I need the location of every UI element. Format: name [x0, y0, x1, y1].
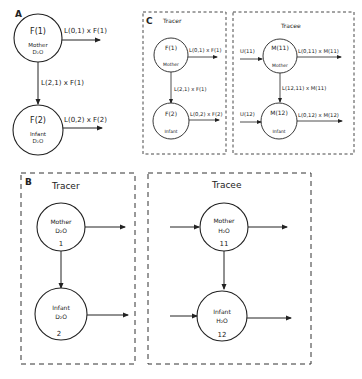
node-sub-label: Infant [30, 131, 47, 137]
panel-c-tracer-node-mother: F(1) Mother [154, 38, 188, 72]
compartment-circle [13, 105, 63, 155]
node-number: 11 [220, 240, 229, 248]
panel-c-tracer-title: Tracer [162, 17, 182, 24]
flow-label: L(0,2) x F(2) [64, 116, 107, 124]
compartment-model-diagram: A F(1) Mother D₂O L(0,1) x F(1) L(2,1) x… [0, 0, 362, 379]
panel-b: B Tracer Mother D₂O 1 Infant D₂O 2 Trace… [21, 173, 311, 364]
node-number: 12 [218, 331, 227, 339]
flow-label: L(12,11) x M(11) [282, 85, 326, 91]
flow-label: L(0,1) x F(1) [189, 47, 222, 53]
panel-b-tracee-node-mother: Mother H₂O 11 [200, 203, 248, 251]
flow-label: L(0,11) x M(11) [298, 48, 339, 54]
panel-c-tracee-node-mother: M(11) Mother [263, 39, 297, 73]
node-name: Mother [213, 217, 235, 224]
panel-b-tracer-node-infant: Infant D₂O 2 [35, 288, 87, 340]
flow-label: U(11) [240, 48, 255, 54]
flow-label: L(0,2) x F(2) [190, 111, 223, 117]
panel-a-node-infant: F(2) Infant D₂O [13, 105, 63, 155]
node-formula: H₂O [218, 227, 230, 234]
panel-c-tracee-title: Tracee [280, 22, 301, 29]
panel-c-tracee-box [233, 12, 354, 154]
panel-c: C Tracer F(1) Mother L(0,1) x F(1) L(2,1… [143, 12, 354, 154]
flow-label: L(0,12) x M(12) [298, 112, 339, 118]
panel-c-letter: C [146, 16, 153, 26]
node-main-label: F(2) [30, 116, 46, 125]
panel-a-letter: A [15, 9, 22, 19]
node-formula: H₂O [216, 317, 228, 324]
node-formula: D₂O [55, 227, 67, 234]
node-name: Infant [52, 304, 70, 311]
panel-b-tracer-box [21, 173, 135, 364]
node-main-label: F(1) [165, 44, 177, 51]
node-name: Mother [50, 218, 72, 225]
panel-b-tracee-title: Tracee [211, 180, 242, 190]
node-sub-label: Mother [272, 63, 288, 68]
flow-label: L(2,1) x F(1) [174, 86, 207, 92]
node-main-label: M(12) [270, 109, 288, 116]
panel-b-tracer-title: Tracer [51, 181, 80, 191]
node-name: Infant [213, 308, 231, 315]
node-sub-label: D₂O [33, 49, 44, 55]
node-number: 1 [59, 240, 63, 248]
panel-c-tracee-node-infant: M(12) Infant [261, 103, 297, 139]
node-formula: D₂O [55, 313, 67, 320]
panel-a-node-mother: F(1) Mother D₂O [14, 14, 62, 62]
panel-b-tracer-node-mother: Mother D₂O 1 [37, 203, 85, 251]
flow-label: L(2,1) x F(1) [41, 79, 84, 87]
node-main-label: M(11) [271, 44, 289, 51]
node-sub-label: Infant [164, 129, 177, 134]
flow-label: U(12) [240, 111, 255, 117]
panel-b-letter: B [25, 177, 32, 187]
panel-a: A F(1) Mother D₂O L(0,1) x F(1) L(2,1) x… [13, 9, 107, 155]
node-sub-label: D₂O [33, 138, 44, 144]
panel-b-tracee-node-infant: Infant H₂O 12 [197, 291, 247, 341]
panel-c-tracer-node-infant: F(2) Infant [153, 103, 189, 139]
node-sub-label: Mother [163, 62, 179, 67]
flow-label: L(0,1) x F(1) [64, 27, 107, 35]
node-main-label: F(1) [30, 27, 46, 36]
node-sub-label: Mother [28, 42, 48, 48]
node-number: 2 [57, 330, 61, 338]
node-main-label: F(2) [165, 110, 177, 117]
node-sub-label: Infant [272, 129, 285, 134]
